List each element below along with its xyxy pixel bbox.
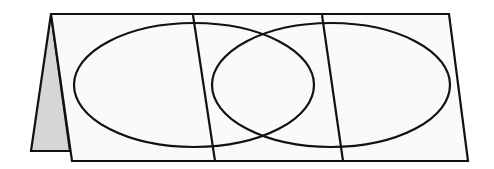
venn-foldable-diagram	[0, 0, 494, 169]
